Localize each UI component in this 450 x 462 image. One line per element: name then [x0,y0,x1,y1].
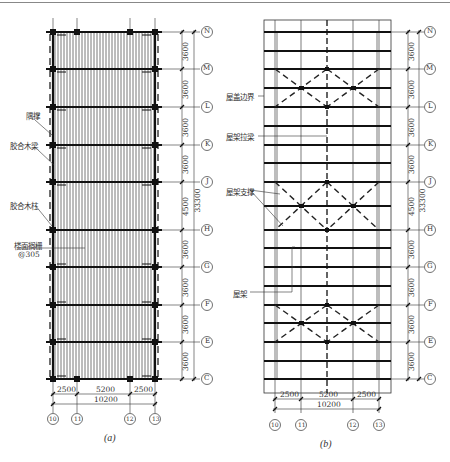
dim-row-7: 3600 [407,278,416,297]
dim-row-4: 3600 [181,155,190,174]
axis-row-label: J [429,177,432,185]
axis-col-label: 10 [49,415,57,422]
dim-row-3: 3600 [407,118,416,137]
axis-row-label: C [204,374,209,382]
dim-total-length: 33300 [418,189,427,213]
dim-row-3: 3600 [181,118,190,137]
caption-b: (b) [320,438,332,449]
label-joist-spacing: @305 [18,250,40,259]
axis-row-label: J [206,177,209,185]
axis-row-label: L [205,102,210,110]
axis-row-label: C [427,374,432,382]
axis-col-label: 11 [74,415,82,422]
axis-row-label: H [427,225,433,233]
dim-row-5: 4500 [181,197,190,216]
axis-row-label: G [204,262,210,270]
dim-row-1: 3600 [181,42,190,61]
dim-row-8: 3600 [181,315,190,334]
axis-col-label: 13 [152,415,160,422]
axis-row-label: F [428,300,433,308]
axis-row-label: N [427,27,433,35]
axis-col-label: 12 [126,415,134,422]
dim-row-9: 3600 [181,352,190,371]
label-truss-tie-beam: 屋架拉梁 [226,131,254,142]
dim-row-1: 3600 [407,42,416,61]
label-truss-bracing: 屋架支撑 [226,186,254,197]
label-glulam-column: 胶合木柱 [10,200,38,211]
dim-col-2: 5200 [96,385,115,394]
dim-total-length: 33300 [193,189,202,213]
dim-total-width: 10200 [317,400,341,409]
dim-row-7: 3600 [181,278,190,297]
dim-row-6: 3600 [181,240,190,259]
label-roof-boundary: 屋盖边界 [226,91,254,102]
axis-row-label: L [428,102,433,110]
dim-col-1: 2500 [280,390,299,399]
dim-row-2: 3600 [181,80,190,99]
label-brace: 隅撑 [26,110,40,121]
dim-total-width: 10200 [94,395,118,404]
axis-col-label: 12 [349,421,357,428]
axis-row-label: E [205,337,210,345]
axis-row-label: N [204,27,210,35]
dim-row-8: 3600 [407,315,416,334]
axis-row-label: H [204,225,210,233]
axis-row-label: M [426,64,433,72]
axis-row-label: G [427,262,433,270]
dim-row-9: 3600 [407,352,416,371]
dim-col-1: 2500 [57,385,76,394]
axis-row-label: F [205,300,210,308]
dim-row-2: 3600 [407,80,416,99]
dim-col-3: 2500 [134,385,153,394]
axis-row-label: M [203,64,210,72]
axis-row-label: K [428,140,433,148]
label-roof-truss: 屋架 [233,288,247,299]
dim-row-5: 4500 [407,197,416,216]
dim-col-2: 5200 [319,390,338,399]
dim-col-3: 2500 [357,390,376,399]
axis-col-label: 11 [298,421,306,428]
label-glulam-beam: 胶合木梁 [10,140,38,151]
dim-row-6: 3600 [407,240,416,259]
dim-row-4: 3600 [407,155,416,174]
axis-col-label: 13 [375,421,383,428]
axis-row-label: E [428,337,433,345]
axis-col-label: 10 [271,421,279,428]
floor-joists [53,32,155,379]
caption-a: (a) [104,432,116,443]
axis-row-label: K [205,140,210,148]
